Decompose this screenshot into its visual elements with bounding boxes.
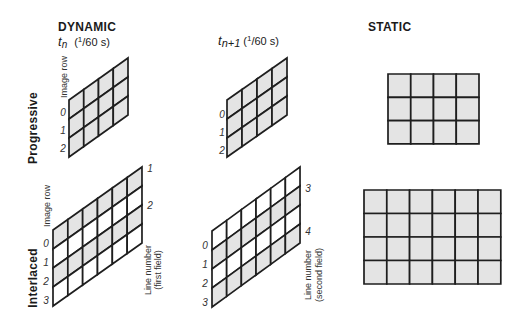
grid-cell (432, 214, 455, 238)
grid-cell (478, 237, 501, 261)
progressive-tn-grid (69, 58, 128, 157)
image-row-label-progressive: Image row (59, 55, 69, 98)
progressive-tn1-grid (227, 58, 287, 157)
progressive-vs-interlaced-diagram: DYNAMIC STATIC tn(1/60 s) tn+1(1/60 s) P… (0, 0, 523, 318)
row-index: 1 (202, 259, 208, 270)
grid-cell (364, 261, 387, 285)
grid-cell (434, 121, 457, 144)
row-index: 1 (43, 257, 49, 268)
grid-cell (456, 97, 479, 120)
grid-cell (410, 261, 433, 285)
time-label-tn1: tn+1(1/60 s) (218, 33, 279, 49)
line-number: 2 (146, 200, 153, 211)
grid-cell (478, 261, 501, 285)
static-heading: STATIC (368, 20, 411, 34)
row-index: 2 (59, 143, 66, 154)
grid-cell (432, 237, 455, 261)
dynamic-heading: DYNAMIC (58, 20, 116, 34)
grid-cell (411, 97, 434, 120)
grid-cell (478, 214, 501, 238)
interlaced-tn1-grid (212, 167, 300, 307)
grid-cell (410, 237, 433, 261)
grid-cell (456, 121, 479, 144)
row-index: 1 (219, 127, 225, 138)
time-rest: /60 s) (251, 35, 279, 47)
grid-cell (455, 214, 478, 238)
interlaced-static-grid (364, 190, 501, 284)
line-number-label-first: Line number (143, 245, 153, 295)
grid-cell (411, 121, 434, 144)
grid-cell (364, 214, 387, 238)
interlaced-tn-grid (53, 167, 142, 306)
grid-cell (388, 97, 411, 120)
grid-cell (387, 214, 410, 238)
grid-cell (411, 74, 434, 97)
image-row-label-interlaced: Image row (42, 184, 52, 227)
grid-cell (387, 261, 410, 285)
interlaced-label: Interlaced (26, 248, 40, 308)
row-index: 2 (218, 145, 225, 156)
time-subscript: n+1 (222, 37, 241, 49)
progressive-static-grid (388, 74, 479, 144)
time-label-tn: tn(1/60 s) (58, 34, 110, 50)
line-number-label-second: Line number (303, 250, 313, 300)
grid-cell (364, 190, 387, 214)
grid-cell (434, 74, 457, 97)
row-index: 3 (43, 295, 49, 306)
grid-cell (455, 261, 478, 285)
line-number: 4 (305, 226, 311, 237)
row-index: 3 (202, 297, 208, 308)
first-field-label: (first field) (153, 250, 163, 290)
row-index: 0 (219, 109, 225, 120)
line-number: 3 (305, 183, 311, 194)
row-index: 2 (42, 276, 49, 287)
grid-cell (455, 190, 478, 214)
grid-cell (364, 237, 387, 261)
time-subscript: n (62, 39, 68, 50)
grid-cell (434, 97, 457, 120)
row-index: 1 (60, 125, 66, 136)
grid-cell (388, 74, 411, 97)
row-index: 0 (43, 238, 49, 249)
grid-cell (387, 237, 410, 261)
grid-cell (410, 214, 433, 238)
second-field-label: (second field) (314, 248, 324, 302)
progressive-label: Progressive (26, 92, 40, 164)
grid-cell (432, 261, 455, 285)
time-rest: /60 s) (82, 36, 110, 48)
grid-cell (478, 190, 501, 214)
grid-cell (410, 190, 433, 214)
grid-cell (432, 190, 455, 214)
row-index: 0 (202, 240, 208, 251)
grid-cell (456, 74, 479, 97)
grid-cell (455, 237, 478, 261)
row-index: 0 (60, 107, 66, 118)
row-index: 2 (201, 278, 208, 289)
grid-cell (387, 190, 410, 214)
grid-cell (388, 121, 411, 144)
line-number: 1 (147, 163, 153, 174)
